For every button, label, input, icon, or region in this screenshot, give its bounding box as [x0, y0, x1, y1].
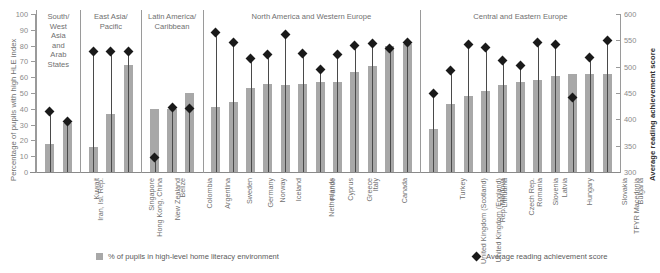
right-axis-title: Average reading achievement score — [648, 48, 657, 181]
marker-stem — [503, 60, 504, 172]
score-diamond-marker — [515, 61, 525, 71]
group-separator — [80, 10, 81, 173]
score-diamond-marker — [550, 39, 560, 49]
marker-stem — [93, 52, 94, 172]
marker-stem — [433, 94, 434, 172]
group-header: North America and Western Europe — [200, 12, 423, 22]
score-diamond-marker — [123, 47, 133, 57]
left-tick-label: 20 — [8, 136, 28, 145]
marker-stem — [390, 48, 391, 172]
score-diamond-marker — [428, 89, 438, 99]
right-tick-label: 600 — [624, 10, 648, 19]
legend-diamond-label: Average reading achievement score — [486, 252, 607, 261]
marker-stem — [337, 54, 338, 172]
left-tick-label: 10 — [8, 152, 28, 161]
left-tick-label: 60 — [8, 73, 28, 82]
right-axis-line — [620, 14, 621, 173]
group-separator — [420, 10, 421, 173]
left-tick-label: 100 — [8, 10, 28, 19]
left-tick-label: 30 — [8, 121, 28, 130]
score-diamond-marker — [602, 35, 612, 45]
left-tick-label: 50 — [8, 89, 28, 98]
category-label: Slovenia — [551, 178, 560, 206]
category-label: Lithuania — [500, 178, 509, 207]
legend-bar-label: % of pupils in high-level home literacy … — [108, 252, 279, 261]
marker-stem — [520, 66, 521, 172]
marker-stem — [233, 42, 234, 172]
marker-stem — [451, 71, 452, 172]
marker-stem — [573, 97, 574, 172]
score-diamond-marker — [533, 38, 543, 48]
marker-stem — [590, 57, 591, 172]
score-diamond-marker — [298, 49, 308, 59]
marker-stem — [172, 108, 173, 172]
left-tick-label: 40 — [8, 105, 28, 114]
marker-stem — [111, 52, 112, 172]
marker-stem — [555, 44, 556, 172]
right-tick-label: 450 — [624, 89, 648, 98]
right-tick-label: 550 — [624, 36, 648, 45]
marker-stem — [128, 52, 129, 172]
score-diamond-marker — [263, 49, 273, 59]
score-diamond-marker — [45, 107, 55, 117]
category-label: Belize — [177, 178, 186, 198]
marker-stem — [251, 58, 252, 172]
marker-stem — [50, 112, 51, 172]
score-diamond-marker — [228, 37, 238, 47]
category-label: Hungary — [585, 178, 594, 205]
marker-stem — [189, 109, 190, 172]
marker-stem — [355, 45, 356, 172]
marker-stem — [538, 43, 539, 172]
score-diamond-marker — [367, 39, 377, 49]
marker-stem — [268, 54, 269, 172]
left-tick-label: 0 — [8, 168, 28, 177]
marker-stem — [216, 33, 217, 172]
marker-stem — [407, 42, 408, 172]
right-tick-label: 300 — [624, 168, 648, 177]
category-label: Norway — [278, 178, 287, 202]
score-diamond-marker — [333, 49, 343, 59]
left-tick-label: 90 — [8, 26, 28, 35]
category-label: Argentina — [223, 178, 232, 209]
group-separator — [203, 10, 204, 173]
category-label: Hong Kong, China — [155, 178, 164, 237]
right-tick-label: 350 — [624, 142, 648, 151]
legend-bar-swatch-icon — [96, 253, 103, 260]
category-label: Singapore — [147, 178, 156, 211]
category-label: Bulgaria — [637, 178, 646, 204]
group-separator — [141, 10, 142, 173]
marker-stem — [468, 44, 469, 172]
score-diamond-marker — [350, 40, 360, 50]
score-diamond-marker — [481, 42, 491, 52]
marker-stem — [285, 34, 286, 172]
score-diamond-marker — [315, 65, 325, 75]
category-label: Sweden — [245, 178, 254, 204]
category-label: Iceland — [294, 178, 303, 201]
score-diamond-marker — [446, 66, 456, 76]
category-label: Turkey — [458, 178, 467, 200]
category-label: Latvia — [560, 178, 569, 197]
marker-stem — [303, 54, 304, 173]
score-diamond-marker — [463, 39, 473, 49]
group-header: East Asia/ Pacific — [78, 12, 144, 31]
marker-stem — [67, 121, 68, 172]
score-diamond-marker — [585, 52, 595, 62]
group-separator — [36, 10, 37, 173]
group-header: Latin America/ Caribbean — [139, 12, 205, 31]
marker-stem — [607, 40, 608, 172]
score-diamond-marker — [246, 53, 256, 63]
category-label: Romania — [535, 178, 544, 207]
marker-stem — [372, 43, 373, 172]
marker-stem — [320, 70, 321, 172]
marker-stem — [486, 47, 487, 172]
category-label: Kuwait — [92, 178, 101, 200]
score-diamond-marker — [280, 29, 290, 39]
category-label: Colombia — [205, 178, 214, 208]
score-diamond-marker — [211, 28, 221, 38]
category-label: Slovakia — [620, 178, 629, 205]
category-label: Germany — [266, 178, 275, 208]
category-label: Cyprus — [346, 178, 355, 201]
right-tick-label: 400 — [624, 115, 648, 124]
left-tick-label: 70 — [8, 57, 28, 66]
right-tick-label: 500 — [624, 63, 648, 72]
